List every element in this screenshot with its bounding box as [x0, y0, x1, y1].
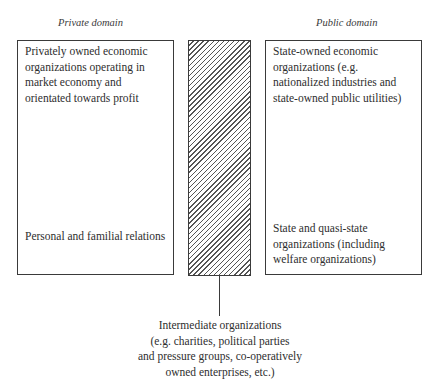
- caption-line-3: and pressure groups, co-operatively: [110, 349, 330, 365]
- caption-line-1: Intermediate organizations: [110, 318, 330, 334]
- caption-line-2: (e.g. charities, political parties: [110, 334, 330, 350]
- private-domain-heading: Private domain: [58, 17, 123, 28]
- connector-line: [219, 276, 220, 316]
- personal-familial-relations-text: Personal and familial relations: [25, 229, 167, 245]
- intermediate-hatched-box: [188, 40, 251, 276]
- private-domain-box: Privately owned economic organizations o…: [17, 40, 174, 275]
- intermediate-organizations-caption: Intermediate organizations (e.g. chariti…: [110, 318, 330, 380]
- public-domain-box: State-owned economic organizations (e.g.…: [265, 40, 422, 275]
- state-owned-economic-organizations-text: State-owned economic organizations (e.g.…: [273, 44, 415, 106]
- private-economic-organizations-text: Privately owned economic organizations o…: [25, 44, 167, 106]
- state-quasi-state-organizations-text: State and quasi-state organizations (inc…: [273, 221, 415, 268]
- caption-line-4: owned enterprises, etc.): [110, 365, 330, 381]
- public-domain-heading: Public domain: [316, 17, 378, 28]
